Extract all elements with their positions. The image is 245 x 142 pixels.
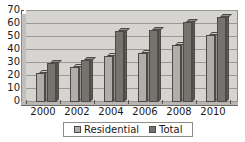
bar-residential-2010[interactable] (206, 35, 215, 102)
bar-side (226, 14, 229, 102)
bar-face (206, 35, 215, 102)
bar-side (192, 19, 195, 102)
x-tick-label-2004: 2004 (96, 106, 126, 117)
bars-layer (26, 10, 238, 102)
y-tick-label: 10 (7, 83, 20, 93)
bar-group-2010 (204, 10, 236, 102)
y-tick-label: 0 (14, 96, 20, 106)
bar-total-2000[interactable] (47, 63, 56, 102)
x-tick-mark (196, 100, 197, 104)
x-tick-mark (60, 100, 61, 104)
bar-residential-2000[interactable] (36, 73, 45, 102)
x-tick-mark (94, 100, 95, 104)
legend-label-residential: Residential (84, 125, 139, 135)
legend-swatch-residential-icon (74, 126, 81, 133)
bar-group-2006 (136, 10, 168, 102)
bar-face (217, 17, 226, 102)
bar-residential-2004[interactable] (104, 56, 113, 102)
legend-entry-total[interactable]: Total (149, 125, 182, 135)
x-tick-label-2000: 2000 (28, 106, 58, 117)
legend-label-total: Total (159, 125, 182, 135)
x-tick-mark (162, 100, 163, 104)
x-tick-mark (128, 100, 129, 104)
x-axis: 2000 2002 2004 2006 2008 2010 (21, 104, 238, 120)
y-tick-label: 50 (7, 31, 20, 41)
bar-face (70, 67, 79, 102)
legend-swatch-total-icon (149, 126, 156, 133)
x-tick-mark (26, 100, 27, 104)
bar-total-2002[interactable] (81, 60, 90, 102)
bar-face (149, 30, 158, 102)
x-tick-label-2008: 2008 (164, 106, 194, 117)
bar-face (81, 60, 90, 102)
bar-total-2008[interactable] (183, 22, 192, 102)
bar-chart: 70 60 50 40 30 20 10 0 (0, 0, 245, 142)
bar-side (90, 57, 93, 102)
bar-group-2000 (34, 10, 66, 102)
chart-legend: Residential Total (63, 122, 193, 137)
bar-residential-2008[interactable] (172, 45, 181, 102)
bar-total-2004[interactable] (115, 31, 124, 102)
bar-residential-2006[interactable] (138, 53, 147, 102)
bar-face (47, 63, 56, 102)
bar-residential-2002[interactable] (70, 67, 79, 102)
bar-side (56, 60, 59, 102)
bar-group-2008 (170, 10, 202, 102)
x-tick-label-2002: 2002 (62, 106, 92, 117)
bar-group-2002 (68, 10, 100, 102)
bar-face (36, 73, 45, 102)
x-tick-label-2006: 2006 (130, 106, 160, 117)
bar-total-2010[interactable] (217, 17, 226, 102)
bar-face (104, 56, 113, 102)
bar-face (172, 45, 181, 102)
bar-side (158, 27, 161, 102)
x-tick-label-2010: 2010 (198, 106, 228, 117)
bar-face (115, 31, 124, 102)
x-tick-mark (230, 100, 231, 104)
y-tick-label: 20 (7, 70, 20, 80)
y-tick-label: 40 (7, 44, 20, 54)
y-tick-label: 70 (7, 5, 20, 15)
y-tick-label: 60 (7, 18, 20, 28)
bar-total-2006[interactable] (149, 30, 158, 102)
y-tick-label: 30 (7, 57, 20, 67)
bar-face (183, 22, 192, 102)
bar-face (138, 53, 147, 102)
bar-group-2004 (102, 10, 134, 102)
bar-side (124, 28, 127, 102)
legend-entry-residential[interactable]: Residential (74, 125, 139, 135)
